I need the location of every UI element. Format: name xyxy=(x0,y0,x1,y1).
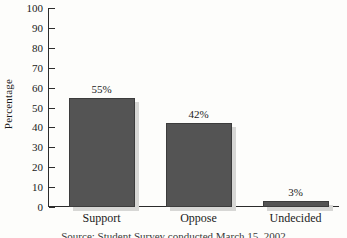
y-tick-label: 50 xyxy=(32,102,43,113)
bar-value-label: 3% xyxy=(288,187,303,198)
y-tick-mark xyxy=(49,108,55,109)
bar-support xyxy=(69,98,135,207)
y-tick-label: 20 xyxy=(32,162,43,173)
y-tick-mark xyxy=(49,127,55,128)
y-tick-label: 70 xyxy=(32,62,43,73)
y-tick-label: 60 xyxy=(32,82,43,93)
y-tick-label: 80 xyxy=(32,42,43,53)
y-axis-title-label: Percentage xyxy=(2,78,14,128)
y-tick-mark xyxy=(49,207,55,208)
y-tick-mark xyxy=(49,48,55,49)
y-tick-label: 90 xyxy=(32,22,43,33)
y-tick-mark xyxy=(49,8,55,9)
y-axis-title: Percentage xyxy=(0,0,16,207)
y-tick-mark xyxy=(49,167,55,168)
y-tick-mark xyxy=(49,88,55,89)
source-caption: Source: Student Survey conducted March 1… xyxy=(61,231,286,238)
x-axis-label-support: Support xyxy=(82,212,120,224)
bar-value-label: 55% xyxy=(91,84,111,95)
y-tick-mark xyxy=(49,68,55,69)
y-tick-label: 40 xyxy=(32,122,43,133)
bar-value-label: 42% xyxy=(188,109,208,120)
bar-chart: Percentage 0102030405060708090100 55%42%… xyxy=(0,0,347,238)
y-tick-mark xyxy=(49,187,55,188)
y-tick-mark xyxy=(49,28,55,29)
y-tick-label: 10 xyxy=(32,182,43,193)
plot-area: 0102030405060708090100 55%42%3% xyxy=(48,8,339,207)
y-tick-label: 100 xyxy=(27,3,44,14)
y-tick-label: 0 xyxy=(38,202,44,213)
x-axis-label-undecided: Undecided xyxy=(270,212,322,224)
x-axis-label-oppose: Oppose xyxy=(180,212,217,224)
y-tick-mark xyxy=(49,147,55,148)
bar-undecided xyxy=(263,201,329,207)
y-tick-label: 30 xyxy=(32,142,43,153)
bar-oppose xyxy=(166,123,232,207)
